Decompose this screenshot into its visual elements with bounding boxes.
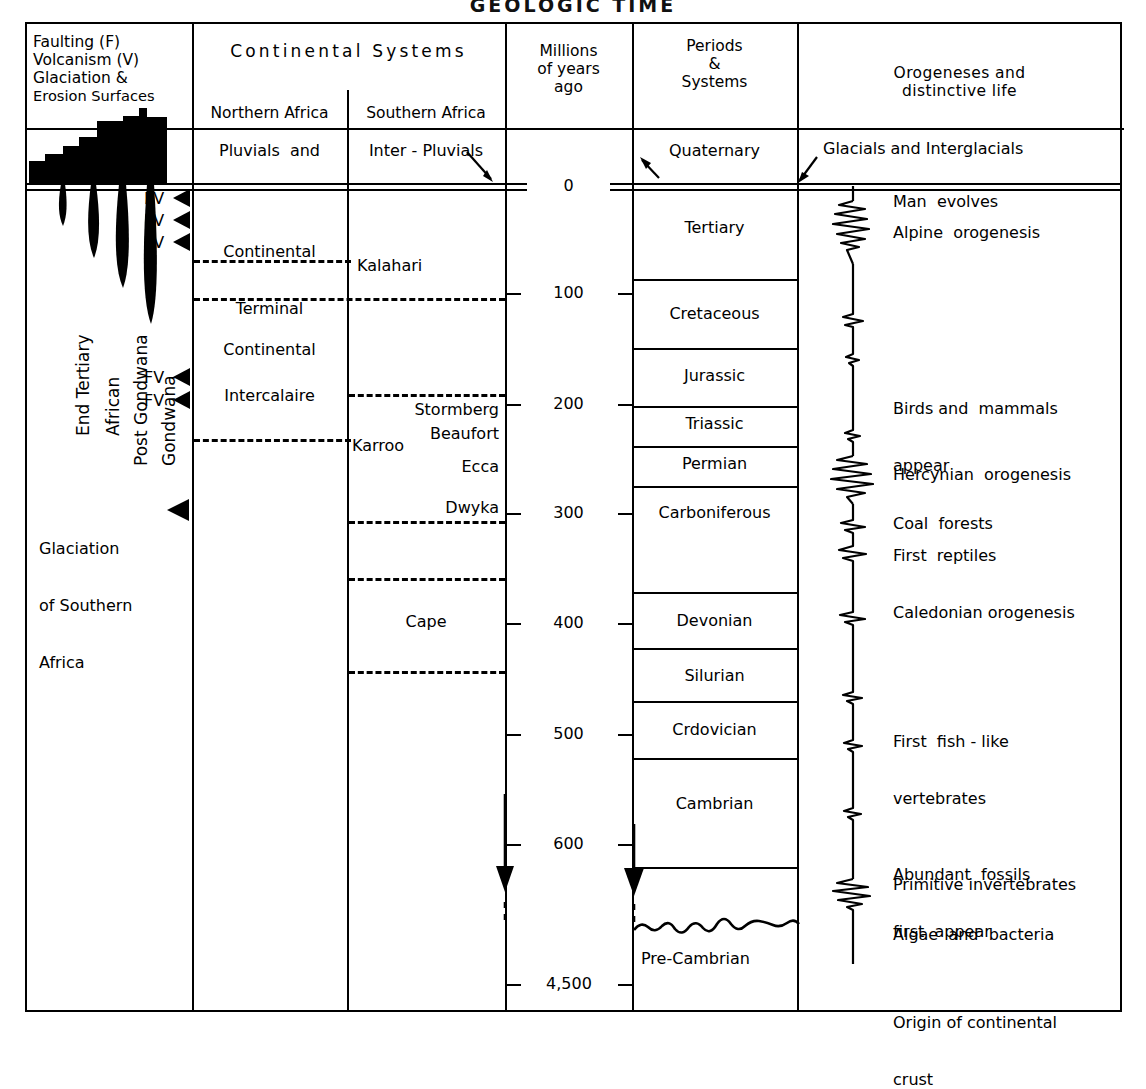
scale-tick-mark-500-right [618, 734, 632, 736]
period-permian: Permian [634, 454, 795, 473]
period-rule-carboniferous-base [634, 592, 797, 594]
north-item-intercalaire: Intercalaire [194, 386, 345, 405]
period-rule-ordovician-base [634, 758, 797, 760]
north-item-pluvials: Pluvials and [194, 141, 345, 160]
scale-tick-mark-4500-left [507, 984, 521, 986]
event-algae-bacteria: Algae and bacteria [893, 925, 1054, 944]
event-origin-continental-crust: Origin of continental crust [893, 975, 1057, 1089]
header-southern-africa-label: Southern Africa [366, 104, 486, 122]
header-northern-africa-label: Northern Africa [211, 104, 329, 122]
scale-tick-label: 4,500 [546, 974, 592, 993]
south-item-label: Dwyka [445, 498, 499, 517]
event-label: Caledonian orogenesis [893, 603, 1075, 622]
period-rule-silurian-base [634, 701, 797, 703]
period-label: Devonian [677, 611, 753, 630]
south-item-cape: Cape [349, 612, 503, 631]
divider-col3 [505, 24, 507, 1010]
event-first-fish-like: First fish - like vertebrates [893, 694, 1009, 846]
period-tertiary: Tertiary [634, 218, 795, 237]
event-label: Coal forests [893, 514, 993, 533]
scale-tick-4500: 4,500 [521, 974, 617, 993]
header-periods-line2: & [634, 55, 795, 73]
header-scale-line1: Millions [507, 42, 630, 60]
dash-kalahari-base [194, 298, 505, 301]
north-item-label: Continental [223, 340, 315, 359]
period-quaternary: Quaternary [634, 141, 795, 160]
period-label: Permian [682, 454, 747, 473]
period-rule-triassic-base [634, 446, 797, 448]
header-orogenesis-line1: Orogeneses and [799, 64, 1120, 82]
header-continental: Continental Systems [194, 42, 503, 60]
divider-col2 [347, 90, 349, 1010]
glaciation-note: Glaciation of Southern Africa [39, 501, 132, 710]
fv-text: FV [144, 368, 164, 387]
period-label: Cambrian [676, 794, 754, 813]
event-label: Origin of continental [893, 1013, 1057, 1032]
south-item-label: Cape [406, 612, 447, 631]
scale-tick-label: 200 [553, 394, 584, 413]
erosion-surface-african: African [103, 377, 123, 436]
scale-tick-label: 600 [553, 834, 584, 853]
fv-text: FV [144, 391, 164, 410]
south-item-label: Kalahari [357, 256, 422, 275]
page-title: GEOLOGIC TIME [0, 0, 1146, 16]
erosion-surface-label: African [103, 377, 123, 436]
period-ordovician: Crdovician [634, 720, 795, 739]
south-item-label: Stormberg [414, 400, 499, 419]
fv-label-3: FV [144, 233, 164, 252]
fv-label-4: FV [144, 368, 164, 387]
north-item-continental: Continental [194, 340, 345, 359]
period-rule-cretaceous-base [634, 348, 797, 350]
event-label: Birds and mammals [893, 399, 1058, 418]
header-periods-line3: Systems [634, 73, 795, 91]
south-item-stormberg: Stormberg [327, 400, 499, 419]
header-orogenesis-line2: distinctive life [799, 82, 1120, 100]
north-item-label: Intercalaire [224, 386, 315, 405]
event-caledonian-orogenesis: Caledonian orogenesis [893, 603, 1075, 622]
scale-tick-mark-100-left [507, 293, 521, 295]
divider-col5 [797, 24, 799, 1010]
event-label: First reptiles [893, 546, 996, 565]
header-erosion: Faulting (F) Volcanism (V) Glaciation & … [33, 33, 191, 105]
header-scale-line2: of years [507, 60, 630, 78]
fv-triangle-2 [173, 211, 190, 229]
period-label: Carboniferous [658, 503, 770, 522]
scale-tick-mark-400-left [507, 623, 521, 625]
south-item-kalahari: Kalahari [357, 256, 422, 275]
scale-tick-mark-300-right [618, 513, 632, 515]
period-cretaceous: Cretaceous [634, 304, 795, 323]
dash-dwyka-base [349, 521, 505, 524]
event-birds-mammals: Birds and mammals appear [893, 361, 1058, 513]
scale-tick-mark-4500-right [618, 984, 632, 986]
fv-triangle-3 [173, 233, 190, 251]
event-abundant-fossils: Abundant fossils first appear [893, 827, 1030, 979]
scale-tick-mark-200-left [507, 404, 521, 406]
fv-text: FV [144, 211, 164, 230]
erosion-surface-label: End Tertiary [73, 334, 93, 436]
divider-col1 [192, 24, 194, 1010]
dash-cape-base [349, 671, 505, 674]
period-rule-cambrian-base [634, 867, 797, 869]
scale-tick-label: 100 [553, 283, 584, 302]
fv-label-5: FV [144, 391, 164, 410]
event-coal-forests: Coal forests [893, 514, 993, 533]
south-item-label: Inter - Pluvials [369, 141, 483, 160]
period-rule-jurassic-base [634, 406, 797, 408]
fv-label-1: FV [144, 189, 164, 208]
header-rule [27, 128, 1124, 130]
glaciation-note-line1: Glaciation [39, 539, 132, 558]
event-label: Algae and bacteria [893, 925, 1054, 944]
header-scale-line3: ago [507, 78, 630, 96]
scale-tick-mark-200-right [618, 404, 632, 406]
scale-tick-label: 300 [553, 503, 584, 522]
scale-tick-label: 500 [553, 724, 584, 743]
period-jurassic: Jurassic [634, 366, 795, 385]
glaciation-note-line2: of Southern [39, 596, 132, 615]
dash-pre-cape [349, 578, 505, 581]
period-label: Triassic [685, 414, 743, 433]
header-periods-line1: Periods [634, 37, 795, 55]
north-item-label: Continental [194, 242, 345, 261]
fv-triangle-1 [173, 189, 190, 207]
header-erosion-line3: Glaciation & [33, 69, 191, 87]
event-glacials-interglacials: Glacials and Interglacials [823, 139, 1023, 158]
